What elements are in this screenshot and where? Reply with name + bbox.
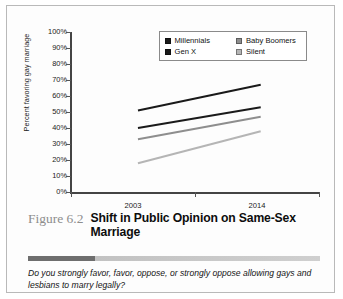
y-axis-tick-mark [66, 176, 71, 177]
x-axis-tick-mark [319, 192, 320, 197]
y-axis-tick-mark [66, 144, 71, 145]
y-axis-tick-label: 0% [33, 188, 67, 195]
y-axis-tick-mark [66, 112, 71, 113]
y-axis-tick-label: 80% [33, 60, 67, 67]
legend-label-millennials: Millennials [175, 36, 210, 45]
y-axis-tick-label: 20% [33, 156, 67, 163]
legend-swatch-gen-x [165, 49, 171, 55]
figure-number: Figure 6.2 [28, 211, 84, 227]
y-axis-tick-labels: 0%10%20%30%40%50%60%70%80%90%100% [31, 6, 67, 206]
caption-line: Figure 6.2 Shift in Public Opinion on Sa… [28, 211, 320, 240]
y-axis-tick-label: 60% [33, 92, 67, 99]
x-axis-tick-mark [195, 192, 196, 197]
y-axis-tick-mark [66, 64, 71, 65]
legend-label-gen-x: Gen X [175, 47, 197, 56]
chart-legend: Millennials Baby Boomers Gen X Silent [159, 31, 307, 61]
chart-area: Percent favoring gay marriage 0%10%20%30… [7, 6, 336, 206]
x-axis-tick-mark [71, 192, 72, 197]
y-axis-tick-mark [66, 32, 71, 33]
y-axis-tick-mark [66, 128, 71, 129]
legend-entry-baby-boomers: Baby Boomers [236, 36, 302, 45]
figure-title: Shift in Public Opinion on Same-Sex Marr… [91, 211, 321, 240]
legend-row: Gen X Silent [165, 46, 302, 57]
y-axis-tick-label: 50% [33, 108, 67, 115]
legend-label-baby-boomers: Baby Boomers [246, 36, 296, 45]
y-axis-tick-mark [66, 48, 71, 49]
y-axis-tick-label: 70% [33, 76, 67, 83]
x-axis-tick-label: 2003 [109, 201, 157, 210]
y-axis-tick-mark [66, 96, 71, 97]
line-series-millennials [138, 85, 261, 111]
legend-entry-millennials: Millennials [165, 36, 236, 45]
legend-swatch-baby-boomers [236, 38, 242, 44]
legend-row: Millennials Baby Boomers [165, 35, 302, 46]
legend-swatch-silent [236, 49, 242, 55]
x-axis-tick-label: 2014 [233, 201, 281, 210]
y-axis-tick-label: 10% [33, 172, 67, 179]
caption-divider-bar [28, 256, 320, 261]
figure-subtitle: Do you strongly favor, favor, oppose, or… [28, 267, 324, 291]
y-axis-tick-label: 40% [33, 124, 67, 131]
figure-caption: Figure 6.2 Shift in Public Opinion on Sa… [28, 211, 320, 240]
legend-entry-silent: Silent [236, 47, 302, 56]
y-axis-tick-mark [66, 160, 71, 161]
legend-swatch-millennials [165, 38, 171, 44]
legend-label-silent: Silent [246, 47, 265, 56]
y-axis-title: Percent favoring gay marriage [22, 18, 31, 148]
y-axis-tick-mark [66, 80, 71, 81]
legend-entry-gen-x: Gen X [165, 47, 236, 56]
y-axis-tick-label: 100% [33, 28, 67, 35]
y-axis-tick-label: 30% [33, 140, 67, 147]
figure-card: Percent favoring gay marriage 0%10%20%30… [6, 5, 335, 293]
line-series-gen-x [138, 107, 261, 128]
y-axis-tick-label: 90% [33, 44, 67, 51]
